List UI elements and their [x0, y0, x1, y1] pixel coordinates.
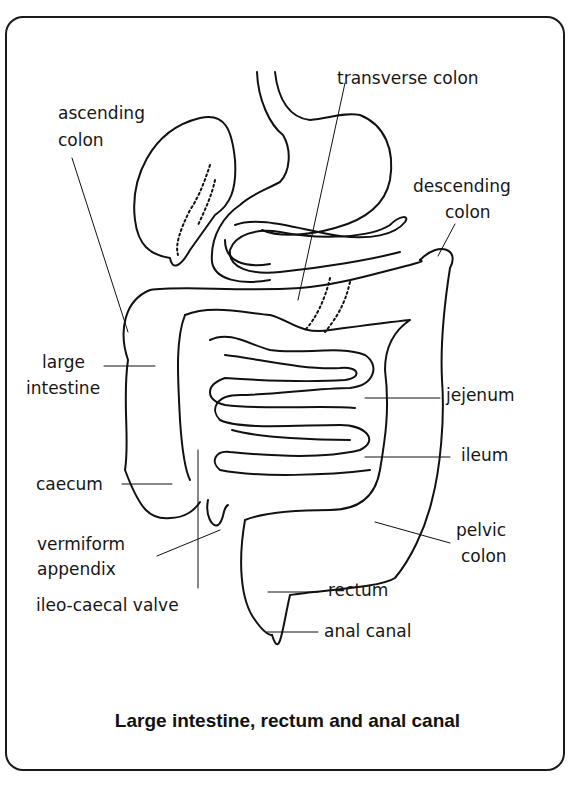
leader-descending-colon	[438, 224, 455, 256]
label-ileo-caecal-valve: ileo-caecal valve	[36, 595, 179, 615]
stomach-outline	[212, 72, 289, 282]
label-ascending-colon-2: colon	[58, 130, 104, 150]
label-anal-canal: anal canal	[324, 621, 411, 641]
label-jejenum: jejenum	[446, 385, 514, 405]
label-pelvic-colon-2: colon	[461, 546, 507, 566]
label-ascending-colon-1: ascending	[58, 103, 145, 123]
liver-outline	[134, 117, 235, 266]
leader-pelvic-colon	[375, 522, 450, 543]
figure-caption: Large intestine, rectum and anal canal	[0, 710, 575, 732]
appendix-outline	[207, 500, 228, 525]
label-transverse-colon: transverse colon	[337, 68, 479, 88]
label-ileum: ileum	[461, 445, 508, 465]
leader-ascending-colon	[72, 158, 128, 332]
label-pelvic-colon-1: pelvic	[456, 520, 506, 540]
leader-vermiform-appendix	[157, 530, 220, 556]
label-large-intestine-1: large	[42, 352, 85, 372]
label-vermiform-appendix-1: vermiform	[37, 534, 125, 554]
label-large-intestine-2: intestine	[26, 378, 100, 398]
label-caecum: caecum	[36, 474, 103, 494]
label-descending-colon-1: descending	[413, 176, 511, 196]
label-vermiform-appendix-2: appendix	[37, 559, 116, 579]
label-rectum: rectum	[328, 580, 388, 600]
label-descending-colon-2: colon	[445, 202, 491, 222]
